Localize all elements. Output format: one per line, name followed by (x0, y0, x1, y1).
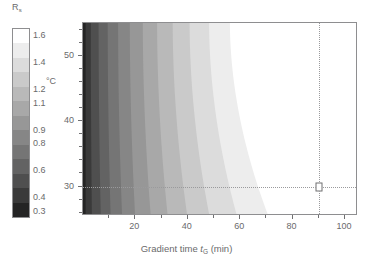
y-axis-minor-tick (79, 146, 82, 147)
y-axis-minor-tick (79, 199, 82, 200)
x-axis-title: Gradient time tG (min) (0, 243, 373, 254)
colorbar-title: Rs (12, 2, 22, 12)
x-axis-tick (187, 215, 188, 219)
colorbar-tick-label: 0.4 (33, 192, 46, 202)
y-axis-minor-tick (79, 81, 82, 82)
colorbar-swatch-4 (13, 87, 29, 101)
x-axis-tick-label: 100 (336, 221, 351, 231)
colorbar-swatch-0 (13, 29, 29, 43)
colorbar-swatch-12 (13, 203, 29, 217)
y-axis-tick (78, 120, 82, 121)
colorbar-swatch-3 (13, 72, 29, 86)
colorbar-title-main: R (12, 2, 19, 12)
y-axis-minor-tick (79, 107, 82, 108)
colorbar-swatch-7 (13, 130, 29, 144)
y-axis-minor-tick (79, 29, 82, 30)
y-axis-tick-label: 40 (50, 115, 74, 125)
x-axis-tick-label: 80 (287, 221, 297, 231)
x-axis-tick-label: 60 (234, 221, 244, 231)
y-axis-minor-tick (79, 133, 82, 134)
y-axis-minor-tick (79, 212, 82, 213)
figure-canvas: Rs 1.61.41.21.10.90.80.60.40.3 204060801… (0, 0, 373, 262)
x-axis-tick-label: 40 (182, 221, 192, 231)
y-axis-minor-tick (79, 68, 82, 69)
x-axis-title-text: Gradient time (141, 243, 201, 254)
y-axis-minor-tick (79, 42, 82, 43)
x-axis-minor-tick (108, 215, 109, 218)
y-axis-minor-tick (79, 172, 82, 173)
y-axis-tick (78, 186, 82, 187)
colorbar-swatch-10 (13, 174, 29, 188)
colorbar-swatch-5 (13, 101, 29, 115)
y-axis-tick (78, 55, 82, 56)
colorbar-tick-label: 1.4 (33, 57, 46, 67)
colorbar-tick-label: 0.3 (33, 206, 46, 216)
colorbar-swatch-9 (13, 159, 29, 173)
colorbar-title-subscript: s (19, 7, 22, 13)
x-axis-title-units: (min) (208, 243, 232, 254)
x-axis-minor-tick (161, 215, 162, 218)
x-axis-tick (134, 215, 135, 219)
x-axis-tick (292, 215, 293, 219)
colorbar-scale (12, 28, 30, 218)
colorbar-swatch-1 (13, 43, 29, 57)
colorbar-tick-label: 1.6 (33, 30, 46, 40)
x-axis-minor-tick (213, 215, 214, 218)
colorbar-swatch-8 (13, 145, 29, 159)
x-axis-minor-tick (265, 215, 266, 218)
plot-area (82, 22, 357, 215)
x-axis-tick (239, 215, 240, 219)
x-axis-tick (344, 215, 345, 219)
contour-band-0p3 (83, 23, 86, 214)
colorbar-tick-label: 1.1 (33, 98, 46, 108)
y-axis-minor-tick (79, 159, 82, 160)
colorbar-tick-label: 0.9 (33, 125, 46, 135)
x-axis-minor-tick (318, 215, 319, 218)
x-axis-title-subscript: G (203, 248, 208, 255)
colorbar-tick-label: 0.8 (33, 138, 46, 148)
y-axis-tick-label: 30 (50, 181, 74, 191)
colorbar-swatch-6 (13, 116, 29, 130)
x-axis-tick-label: 20 (129, 221, 139, 231)
colorbar-tick-label: 0.6 (33, 165, 46, 175)
colorbar-swatch-2 (13, 58, 29, 72)
y-axis-tick-label: 50 (50, 50, 74, 60)
y-axis-title: °C (46, 76, 56, 86)
y-axis-minor-tick (79, 94, 82, 95)
operating-point-marker[interactable] (315, 182, 322, 191)
colorbar-tick-label: 1.2 (33, 84, 46, 94)
colorbar-swatch-11 (13, 188, 29, 202)
